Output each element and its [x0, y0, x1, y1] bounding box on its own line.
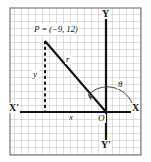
angle-label: θ: [117, 80, 123, 89]
point-p-label: P = (−9, 12): [33, 24, 79, 35]
axis-label-x-positive: X: [131, 103, 140, 113]
axis-label-y-positive: Y: [101, 9, 110, 19]
horizontal-leg-label: x: [68, 113, 74, 122]
vertical-leg-label: y: [32, 70, 38, 79]
axis-label-x-negative: X′: [8, 103, 20, 113]
origin-label: O: [97, 114, 106, 123]
figure-canvas: P = (−9, 12) Y Y′ X′ X O r y x θ: [0, 0, 151, 162]
axis-label-y-negative: Y′: [100, 140, 112, 150]
radius-label: r: [65, 55, 71, 64]
